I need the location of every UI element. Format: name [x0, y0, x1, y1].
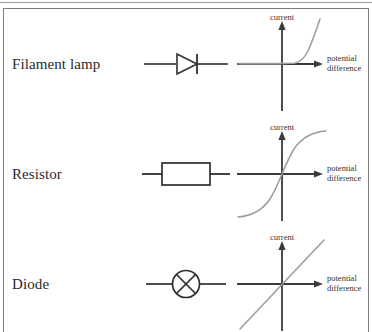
circuit-symbol-cell: [140, 119, 232, 229]
x-axis-label-line1: potential: [327, 163, 357, 173]
component-name-label: Resistor: [12, 166, 62, 183]
characteristic-graph-cell: current potential difference: [232, 119, 370, 229]
ohmic-characteristic-graph: current potential difference: [232, 229, 370, 332]
characteristic-curve: [240, 19, 320, 64]
y-axis-label: current: [270, 122, 295, 132]
x-axis-label-line2: difference: [327, 283, 362, 293]
characteristic-graph-cell: current potential difference: [232, 9, 370, 119]
top-rule-divider: [0, 2, 372, 3]
diode-characteristic-graph: current potential difference: [232, 9, 370, 119]
component-name-cell: Filament lamp: [12, 9, 140, 119]
component-name-label: Diode: [12, 276, 49, 293]
x-axis-label-line2: difference: [327, 173, 362, 183]
table-row: Diode: [4, 229, 370, 332]
component-name-label: Filament lamp: [12, 56, 100, 73]
y-axis-label: current: [270, 232, 295, 242]
filament-lamp-characteristic-graph: current potential difference: [232, 119, 370, 229]
lamp-symbol-icon: [140, 264, 232, 304]
resistor-symbol-icon: [140, 154, 232, 194]
table-row: Resistor: [4, 119, 370, 229]
y-axis-arrowhead: [278, 21, 285, 30]
x-axis-arrowhead: [314, 60, 323, 67]
x-axis-arrowhead: [314, 170, 323, 177]
component-name-cell: Diode: [12, 229, 140, 332]
x-axis-arrowhead: [314, 280, 323, 287]
component-name-cell: Resistor: [12, 119, 140, 229]
y-axis-arrowhead: [278, 241, 285, 250]
page-root: Filament lamp: [0, 0, 372, 332]
circuit-symbol-cell: [140, 9, 232, 119]
y-axis-label: current: [270, 12, 295, 22]
component-characteristics-table: Filament lamp: [3, 8, 369, 332]
x-axis-label-line2: difference: [327, 63, 362, 73]
characteristic-graph-cell: current potential difference: [232, 229, 370, 332]
diode-symbol-icon: [140, 44, 232, 84]
x-axis-label-line1: potential: [327, 273, 357, 283]
circuit-symbol-cell: [140, 229, 232, 332]
table-row: Filament lamp: [4, 9, 370, 119]
y-axis-arrowhead: [278, 131, 285, 140]
x-axis-label-line1: potential: [327, 53, 357, 63]
